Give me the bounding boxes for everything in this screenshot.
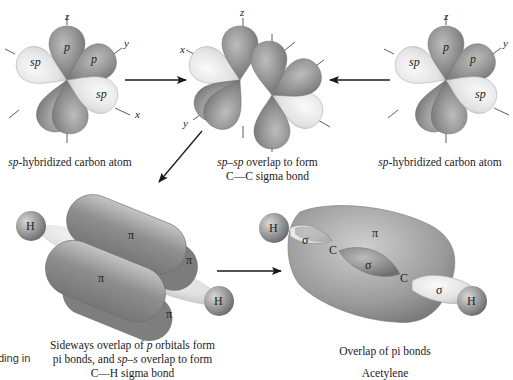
pi-label: π xyxy=(128,228,134,242)
caption-emphasis: sp xyxy=(233,156,243,168)
caption-text: Acetylene xyxy=(325,366,445,380)
lobe-label-sp: sp xyxy=(409,55,420,69)
axis-label-z: z xyxy=(443,10,449,22)
caption-text: -hybridized carbon atom xyxy=(389,156,502,168)
atom-label-c: C xyxy=(400,271,408,285)
caption-emphasis: sp xyxy=(217,156,227,168)
axis-label-z: z xyxy=(64,10,70,22)
left-atom-caption: sp-hybridized carbon atom xyxy=(5,155,135,169)
sigma-label: σ xyxy=(302,233,309,247)
atom-label-h: H xyxy=(26,219,35,233)
lobe-label-p: p xyxy=(90,52,97,66)
pi-label: π xyxy=(186,253,192,267)
lobe-label-sp: sp xyxy=(475,87,486,101)
lobe-label-sp: sp xyxy=(30,55,41,69)
pi-overlap-molecule: H H π π π π xyxy=(16,187,234,348)
right-atom-caption: sp-hybridized carbon atom xyxy=(375,155,505,169)
middle-sp-sp-overlap: z x y xyxy=(179,6,330,152)
right-sp-atom: z y sp p p sp xyxy=(384,10,509,143)
axis-label-y: y xyxy=(123,37,129,49)
atom-label-c: C xyxy=(329,243,337,257)
lobe-label-sp: sp xyxy=(96,87,107,101)
axis-label-z: z xyxy=(239,6,245,18)
caption-text: C—C sigma bond xyxy=(205,169,330,183)
cut-off-text: ding in xyxy=(0,351,30,365)
caption-text: overlap to form xyxy=(138,353,212,365)
lobe-label-p: p xyxy=(469,52,476,66)
pi-overlap-caption: Sideways overlap of p orbitals form pi b… xyxy=(45,338,220,380)
atom-label-h: H xyxy=(269,221,278,235)
acetylene-molecule: H C C H σ σ σ π xyxy=(259,206,487,323)
pi-label: π xyxy=(372,226,378,240)
left-sp-atom: z y x sp p p sp xyxy=(5,10,140,143)
arrow-down-left xyxy=(159,131,202,182)
caption-text: Overlap of pi bonds xyxy=(325,344,445,358)
caption-text: orbitals form xyxy=(152,339,215,351)
lobe-label-p: p xyxy=(442,40,449,54)
caption-text: C—H sigma bond xyxy=(45,366,220,380)
caption-text: pi bonds, and xyxy=(53,353,118,365)
pi-label: π xyxy=(166,307,172,321)
pi-label: π xyxy=(98,271,104,285)
axis-label-x: x xyxy=(179,43,185,55)
axis-label-y: y xyxy=(502,37,508,49)
axis-label-y: y xyxy=(182,117,188,129)
atom-label-h: H xyxy=(214,294,223,308)
acetylene-caption: Overlap of pi bonds Acetylene xyxy=(325,344,445,380)
sigma-label: σ xyxy=(436,283,443,297)
caption-emphasis: sp–s xyxy=(117,353,137,365)
caption-text: overlap to form xyxy=(243,156,317,168)
middle-atom-caption: sp–sp overlap to form C—C sigma bond xyxy=(205,155,330,183)
caption-text: Sideways overlap of xyxy=(50,339,147,351)
sigma-label: σ xyxy=(365,258,372,272)
caption-emphasis: sp xyxy=(378,156,388,168)
lobe-label-p: p xyxy=(63,40,70,54)
axis-label-x: x xyxy=(134,108,140,120)
caption-text: -hybridized carbon atom xyxy=(19,156,132,168)
caption-emphasis: sp xyxy=(8,156,18,168)
atom-label-h: H xyxy=(467,294,476,308)
